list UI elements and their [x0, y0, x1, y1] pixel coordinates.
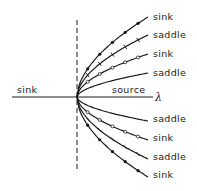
- branch-label-saddle: saddle: [153, 29, 186, 40]
- branch-marker-open-arrow: [111, 66, 114, 69]
- branch-marker-filled-dot: [136, 22, 139, 25]
- left-region-label: sink: [17, 84, 38, 95]
- branch-label-sink: sink: [153, 169, 174, 180]
- bifurcation-diagram: sink source λ sinksaddlesinksaddlesaddle…: [0, 0, 197, 191]
- branch-marker-open-arrow: [98, 73, 101, 76]
- branch-marker-filled-dot: [98, 138, 101, 141]
- branch-label-saddle: saddle: [153, 113, 186, 124]
- branch-marker-open-arrow: [86, 111, 89, 114]
- branch-marker-filled-dot: [86, 67, 89, 70]
- branch-marker-open-arrow: [124, 130, 127, 133]
- branch-marker-open-arrow: [86, 80, 89, 83]
- branch-marker-filled-dot: [98, 53, 101, 56]
- branch-marker-open-arrow: [124, 61, 127, 64]
- branch-marker-open-arrow: [111, 125, 114, 128]
- branch-marker-filled-dot: [86, 124, 89, 127]
- branch-label-saddle: saddle: [153, 151, 186, 162]
- branch-marker-open-arrow: [137, 56, 140, 59]
- branch-marker-filled-dot: [124, 31, 127, 34]
- right-region-label: source: [112, 84, 145, 95]
- branch-marker-filled-dot: [124, 160, 127, 163]
- branch-marker-open-arrow: [98, 118, 101, 121]
- branch-label-sink: sink: [153, 132, 174, 143]
- branch-curve-lower-0: [77, 97, 148, 121]
- branch-marker-open-arrow: [137, 135, 140, 138]
- branch-marker-filled-dot: [136, 169, 139, 172]
- branch-marker-filled-dot: [111, 41, 114, 44]
- branch-label-saddle: saddle: [153, 67, 186, 78]
- lambda-axis-label: λ: [154, 91, 162, 104]
- branch-label-sink: sink: [153, 48, 174, 59]
- branch-marker-filled-dot: [111, 150, 114, 153]
- branch-marker-tick: [98, 128, 101, 132]
- branch-marker-tick: [86, 117, 89, 121]
- branch-label-sink: sink: [153, 11, 174, 22]
